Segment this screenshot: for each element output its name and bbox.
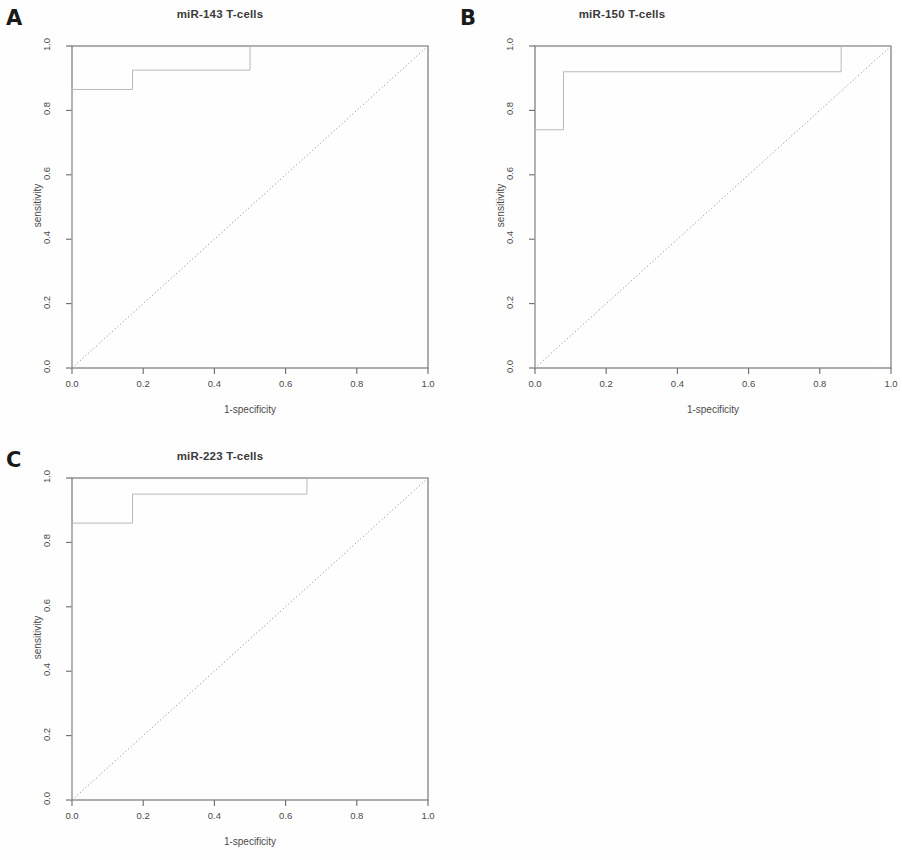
y-tick-label: 0.8: [504, 95, 515, 123]
x-tick-label: 0.2: [123, 378, 163, 389]
x-axis-label: 1-specificity: [72, 404, 428, 415]
x-tick-label: 0.6: [729, 378, 769, 389]
y-tick-label: 0.2: [504, 288, 515, 316]
y-tick-label: 1.0: [41, 463, 52, 491]
x-tick-label: 0.8: [800, 378, 840, 389]
x-tick-label: 0.4: [194, 810, 234, 821]
empty-quadrant: [440, 440, 874, 860]
x-tick-label: 0.0: [52, 810, 92, 821]
panel-b-plot: 0.00.20.40.60.81.00.00.20.40.60.81.01-sp…: [440, 0, 874, 430]
y-tick-label: 0.8: [41, 95, 52, 123]
y-tick-label: 0.0: [41, 353, 52, 381]
panel-c-plot: 0.00.20.40.60.81.00.00.20.40.60.81.01-sp…: [0, 440, 440, 860]
y-tick-label: 0.2: [41, 288, 52, 316]
y-tick-label: 0.0: [41, 785, 52, 813]
panel-c: C miR-223 T-cells 0.00.20.40.60.81.00.00…: [0, 440, 440, 860]
x-axis-label: 1-specificity: [72, 836, 428, 847]
panel-a-svg: [0, 0, 440, 430]
x-tick-label: 0.0: [515, 378, 555, 389]
x-tick-label: 0.6: [266, 810, 306, 821]
y-tick-label: 1.0: [504, 31, 515, 59]
y-tick-label: 0.8: [41, 527, 52, 555]
panel-a: A miR-143 T-cells 0.00.20.40.60.81.00.00…: [0, 0, 440, 430]
y-axis-label: sensitivity: [32, 578, 43, 698]
x-tick-label: 0.4: [657, 378, 697, 389]
x-tick-label: 0.4: [194, 378, 234, 389]
panel-a-plot: 0.00.20.40.60.81.00.00.20.40.60.81.01-sp…: [0, 0, 440, 430]
x-tick-label: 1.0: [871, 378, 902, 389]
panel-c-svg: [0, 440, 440, 860]
x-tick-label: 0.2: [586, 378, 626, 389]
y-tick-label: 0.2: [41, 720, 52, 748]
reference-diagonal: [535, 46, 891, 368]
x-tick-label: 0.8: [337, 810, 377, 821]
x-tick-label: 0.0: [52, 378, 92, 389]
y-tick-label: 0.0: [504, 353, 515, 381]
reference-diagonal: [72, 478, 428, 800]
x-tick-label: 0.6: [266, 378, 306, 389]
panel-b: B miR-150 T-cells 0.00.20.40.60.81.00.00…: [440, 0, 874, 430]
x-axis-label: 1-specificity: [535, 404, 891, 415]
y-tick-label: 1.0: [41, 31, 52, 59]
y-axis-label: sensitivity: [495, 146, 506, 266]
reference-diagonal: [72, 46, 428, 368]
x-tick-label: 0.2: [123, 810, 163, 821]
y-axis-label: sensitivity: [32, 146, 43, 266]
x-tick-label: 0.8: [337, 378, 377, 389]
